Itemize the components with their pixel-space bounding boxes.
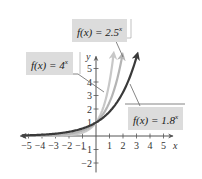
y-tick-label: 2 [87,104,92,115]
y-tick-label: −1 [81,144,92,155]
label-exponent: x [119,25,122,33]
y-tick-label: 3 [87,90,92,101]
y-tick-label: 5 [87,63,92,74]
x-tick-label: 1 [107,140,112,151]
x-axis-label: x [172,140,178,151]
x-tick-label: −4 [35,140,46,151]
label-text: f(x) = 4 [31,59,65,71]
label-f-4x: f(x) = 4x [26,52,73,75]
label-f-2-5x: f(x) = 2.5x [72,19,127,42]
x-tick-label: 3 [134,140,139,151]
label-exponent: x [175,113,178,121]
label-text: f(x) = 2.5 [77,26,119,38]
x-tick-label: 5 [161,140,166,151]
y-axis-label: y [85,51,91,62]
label-text: f(x) = 1.8 [133,114,175,126]
x-tick-label: −5 [21,140,32,151]
label-exponent: x [65,58,68,66]
x-tick-label: 4 [148,140,153,151]
leader-1-8x [130,84,140,106]
x-tick-label: 2 [121,140,126,151]
x-tick-label: −3 [48,140,59,151]
y-tick-label: −2 [81,158,92,169]
x-tick-label: −2 [62,140,73,151]
label-f-1-8x: f(x) = 1.8x [128,107,183,130]
